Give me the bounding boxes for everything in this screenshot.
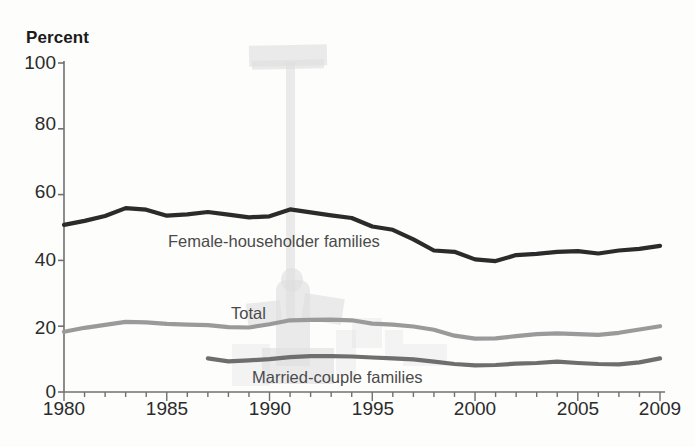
data-series-group [64, 208, 660, 365]
series-line-female-householder-families [64, 208, 660, 261]
axis-tick-marks [58, 63, 660, 401]
series-line-total [64, 320, 660, 339]
axis-lines [64, 61, 665, 392]
series-line-married-couple-families [208, 356, 660, 365]
chart-canvas: Percent 100 80 60 40 20 0 1980 1985 1990… [0, 0, 695, 447]
plot-area [0, 0, 695, 447]
